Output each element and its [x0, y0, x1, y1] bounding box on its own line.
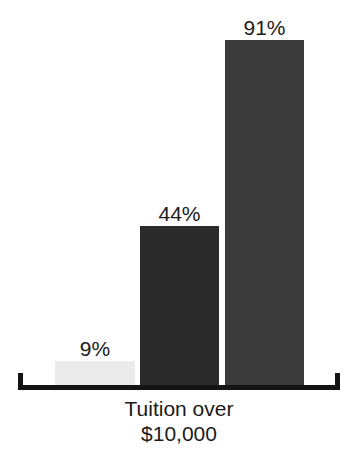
- x-axis-label-line2: $10,000: [0, 421, 358, 446]
- x-axis-tick-right: [335, 373, 340, 388]
- bar-2-value-label: 44%: [140, 203, 219, 224]
- bar-2: [140, 226, 219, 389]
- bar-1-value-label: 9%: [55, 338, 135, 359]
- bar-3-value-label: 91%: [225, 17, 304, 38]
- x-axis-baseline: [18, 385, 340, 390]
- bar-3: [225, 40, 304, 389]
- x-axis-tick-left: [18, 373, 23, 388]
- x-axis-label: Tuition over $10,000: [0, 396, 358, 446]
- x-axis-label-line1: Tuition over: [125, 397, 234, 420]
- plot-area: 9% 44% 91%: [0, 0, 358, 389]
- bar-chart: 9% 44% 91% Tuition over $10,000: [0, 0, 358, 450]
